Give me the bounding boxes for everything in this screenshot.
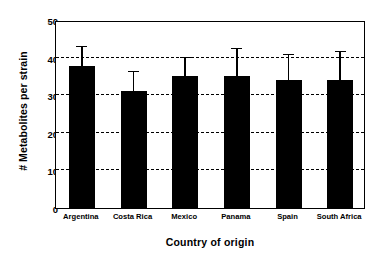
bar-group xyxy=(224,22,250,208)
bar xyxy=(172,76,198,208)
error-bar-line xyxy=(339,52,341,81)
gridline-30 xyxy=(56,94,364,95)
x-axis-title: Country of origin xyxy=(55,236,365,248)
x-tick-label: Panama xyxy=(221,212,250,221)
gridline-40 xyxy=(56,57,364,58)
bar xyxy=(327,80,353,208)
bar-group xyxy=(69,22,95,208)
bar-group xyxy=(327,22,353,208)
bar xyxy=(121,91,147,208)
bar xyxy=(69,66,95,208)
bar-group xyxy=(121,22,147,208)
error-bar-cap xyxy=(335,51,346,52)
x-tick-label: Spain xyxy=(277,212,298,221)
error-bar-line xyxy=(81,47,83,66)
error-bar-cap xyxy=(76,46,87,47)
x-tick-label: Argentina xyxy=(63,212,98,221)
x-tick-label: South Africa xyxy=(317,212,362,221)
error-bar-cap xyxy=(283,54,294,55)
error-bar-line xyxy=(184,58,186,76)
error-bar-line xyxy=(236,49,238,75)
x-tick-label: Mexico xyxy=(171,212,197,221)
y-axis-title: # Metabolites per strain xyxy=(17,16,29,206)
bar xyxy=(224,76,250,208)
bar-group xyxy=(172,22,198,208)
plot-area xyxy=(55,21,365,209)
x-tick-label: Costa Rica xyxy=(113,212,152,221)
gridline-20 xyxy=(56,132,364,133)
bar xyxy=(276,80,302,208)
error-bar-line xyxy=(288,55,290,81)
error-bar-line xyxy=(133,72,135,91)
gridline-10 xyxy=(56,169,364,170)
error-bar-cap xyxy=(128,71,139,72)
bar-chart: # Metabolites per strain 01020304050 Arg… xyxy=(0,0,380,262)
error-bar-cap xyxy=(180,57,191,58)
bar-group xyxy=(276,22,302,208)
error-bar-cap xyxy=(231,48,242,49)
